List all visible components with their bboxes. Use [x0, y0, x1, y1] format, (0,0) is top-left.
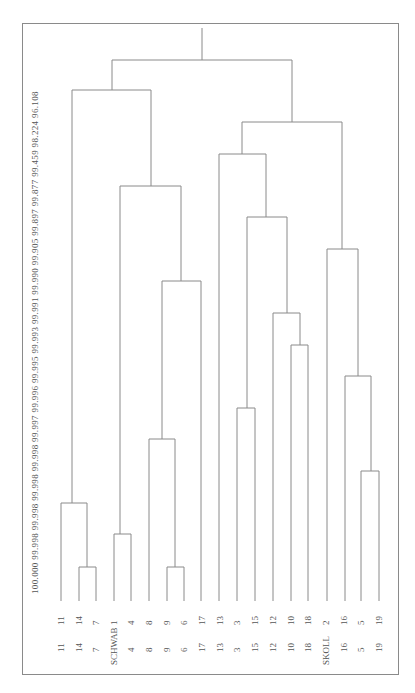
leaf-label-row1: 12 [268, 616, 278, 625]
leaf-label-row2: 19 [374, 643, 384, 652]
leaf-label-row2: 11 [56, 643, 66, 652]
leaf-label-row2: 15 [250, 643, 260, 652]
leaf-label-row1: 4 [126, 621, 136, 626]
leaf-label-row1: 11 [56, 616, 66, 625]
leaf-label-row1: 6 [179, 621, 189, 626]
leaf-label-row1: 13 [215, 616, 225, 625]
leaf-label-row2: SCHWAB [109, 627, 119, 665]
leaf-label-row2: 13 [215, 643, 225, 652]
leaf-label-row1: 7 [91, 621, 101, 626]
leaf-label-row2: 3 [232, 648, 242, 653]
leaf-label-row1: 9 [162, 621, 172, 626]
leaf-label-row1: 10 [286, 616, 296, 625]
similarity-axis-labels: 100.000 99.998 99.998 99.998 99.998 99.9… [30, 91, 40, 594]
leaf-label-row1: 5 [356, 621, 366, 626]
leaf-label-row2: 6 [179, 648, 189, 653]
leaf-label-row2: 7 [91, 648, 101, 653]
leaf-label-row2: 17 [197, 643, 207, 652]
leaf-label-row1: 15 [250, 616, 260, 625]
leaf-label-row2: 5 [356, 648, 366, 653]
leaf-label-row1: 3 [232, 621, 242, 626]
leaf-label-row1: 2 [321, 621, 331, 626]
leaf-label-row2: SKOLL [321, 636, 331, 665]
leaf-label-row2: 9 [162, 648, 172, 653]
leaf-label-row2: 18 [303, 643, 313, 652]
leaf-label-row1: 14 [74, 616, 84, 625]
dendrogram-tree [0, 0, 415, 693]
leaf-label-row2: 14 [74, 643, 84, 652]
leaf-label-row1: 17 [197, 616, 207, 625]
leaf-label-row2: 12 [268, 643, 278, 652]
leaf-label-row1: 8 [144, 621, 154, 626]
leaf-label-row2: 8 [144, 648, 154, 653]
leaf-label-row2: 16 [339, 643, 349, 652]
leaf-label-row1: 19 [374, 616, 384, 625]
leaf-label-row1: 1 [109, 621, 119, 626]
leaf-label-row2: 10 [286, 643, 296, 652]
leaf-label-row2: 4 [126, 648, 136, 653]
leaf-label-row1: 18 [303, 616, 313, 625]
leaf-label-row1: 16 [339, 616, 349, 625]
